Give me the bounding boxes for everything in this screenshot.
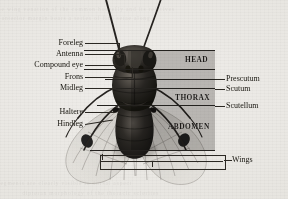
zone-rule-scutum (105, 88, 215, 89)
wings-bracket (100, 155, 226, 170)
label-scutellum: Scutellum (226, 102, 258, 110)
label-wings: Wings (232, 156, 253, 164)
leader-frons-rise (132, 67, 133, 78)
label-hindleg: Hindleg (0, 120, 83, 128)
label-prescutum: Prescutum (226, 75, 260, 83)
zone-label-head: HEAD (185, 55, 208, 64)
zone-rule-head-top (84, 50, 215, 51)
label-scutum: Scutum (226, 85, 250, 93)
zone-rule-prescutum (105, 79, 215, 80)
label-frons: Frons (0, 73, 83, 81)
zone-rule-head-bottom (84, 69, 215, 70)
wings-tick-mid (152, 161, 153, 167)
label-compound-eye: Compound eye (0, 61, 83, 69)
leader-midleg (85, 88, 116, 89)
leader-haltere (85, 112, 115, 113)
label-midleg: Midleg (0, 84, 83, 92)
leader-foreleg (85, 43, 120, 44)
zone-label-abdomen: ABDOMEN (168, 122, 210, 131)
label-foreleg: Foreleg (0, 39, 83, 47)
leader-frons (85, 77, 133, 78)
leader-compound-eye-rise (114, 59, 115, 66)
zone-label-thorax: THORAX (175, 93, 210, 102)
leader-scutellum (215, 106, 225, 107)
leader-scutum (215, 89, 225, 90)
leader-antenna (85, 54, 125, 55)
label-antenna: Antenna (0, 50, 83, 58)
leader-compound-eye (85, 65, 115, 66)
label-haltere: Haltere (0, 108, 83, 116)
zone-rule-abdomen-bottom (90, 150, 215, 151)
zone-rule-thorax (97, 105, 215, 106)
scanned-page: the wing venation of the common housefly… (0, 0, 288, 199)
wings-tick-left (102, 154, 103, 160)
leader-prescutum (215, 79, 225, 80)
leader-antenna-drop (124, 54, 125, 68)
wings-bracket-midline (101, 161, 223, 162)
